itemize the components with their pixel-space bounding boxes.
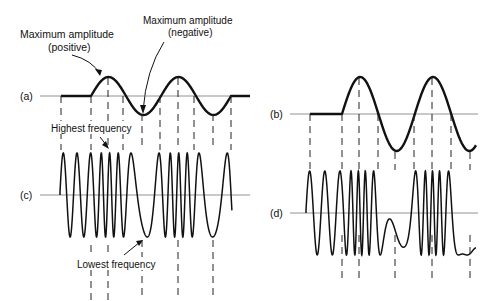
label-max-amplitude-negative: Maximum amplitude (143, 15, 233, 26)
fm-modulation-diagram: Maximum amplitude (positive) Maximum amp… (0, 0, 488, 301)
panel-label-d: (d) (270, 207, 283, 219)
arrow-max-positive (72, 55, 100, 74)
label-max-amplitude-negative-sub: (negative) (168, 27, 212, 38)
label-max-amplitude-positive-sub: (positive) (48, 41, 91, 53)
arrowhead-max-positive (95, 69, 102, 76)
arrow-max-negative (143, 42, 164, 111)
panel-label-c: (c) (20, 189, 32, 201)
label-highest-frequency: Highest frequency (51, 123, 132, 134)
arrowhead-max-negative (140, 105, 146, 114)
label-max-amplitude-positive: Maximum amplitude (20, 28, 114, 40)
arrow-lowest-frequency (124, 242, 140, 255)
panel-label-b: (b) (270, 108, 283, 120)
label-lowest-frequency: Lowest frequency (77, 259, 155, 270)
panel-label-a: (a) (20, 90, 33, 102)
